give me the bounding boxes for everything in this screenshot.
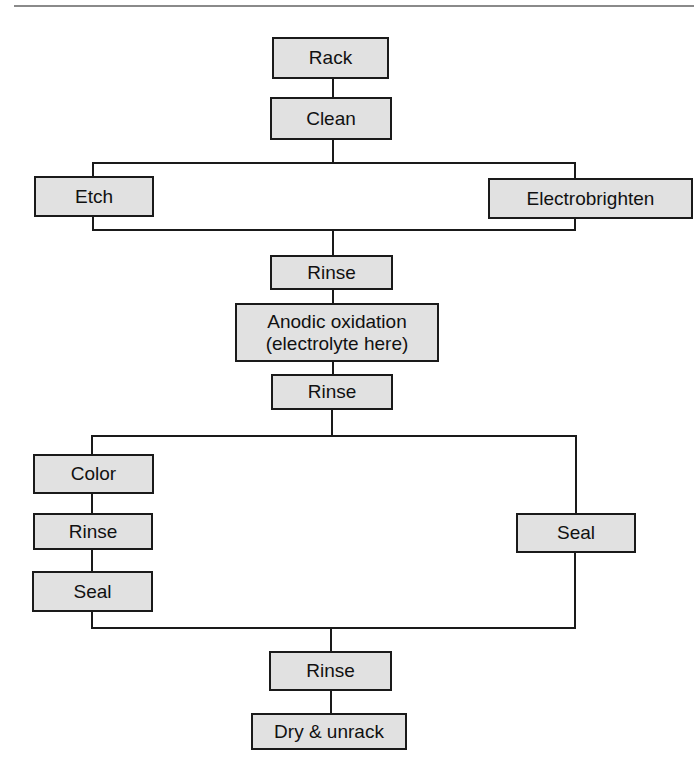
merge-line-2: [91, 627, 576, 629]
split-line-top-1: [92, 162, 576, 164]
step-rinse-2-label: Rinse: [308, 381, 357, 403]
step-color: Color: [33, 454, 154, 494]
step-rack: Rack: [272, 37, 389, 79]
connector-split-electrobrighten: [574, 162, 576, 179]
step-rinse-3-label: Rinse: [306, 660, 355, 682]
step-seal-left-label: Seal: [73, 581, 111, 603]
connector-anodic-rinse2: [332, 361, 334, 375]
step-color-label: Color: [71, 463, 116, 485]
step-anodic-oxidation-label: Anodic oxidation (electrolyte here): [266, 311, 409, 355]
connector-split-etch: [92, 162, 94, 177]
step-rinse-1: Rinse: [270, 255, 393, 290]
step-dry-unrack-label: Dry & unrack: [274, 721, 384, 743]
step-rinse-3: Rinse: [269, 651, 392, 691]
connector-split-seal-right: [575, 435, 577, 514]
step-rinse-1-label: Rinse: [307, 262, 356, 284]
connector-clean-split: [332, 139, 334, 164]
connector-seal-right-merge: [574, 552, 576, 629]
step-etch: Etch: [34, 176, 154, 217]
connector-merge-rinse3: [330, 627, 332, 652]
step-seal-right-label: Seal: [557, 522, 595, 544]
step-electrobrighten-label: Electrobrighten: [527, 188, 655, 210]
step-rinse-left-label: Rinse: [69, 521, 118, 543]
step-rinse-left: Rinse: [33, 513, 153, 550]
step-clean: Clean: [270, 97, 392, 140]
step-clean-label: Clean: [306, 108, 356, 130]
top-rule: [14, 5, 694, 7]
connector-color-rinse: [91, 493, 93, 514]
connector-rinse3-dry: [330, 690, 332, 714]
merge-line-1: [92, 229, 576, 231]
connector-split-color: [91, 435, 93, 455]
step-dry-unrack: Dry & unrack: [251, 713, 407, 750]
step-rack-label: Rack: [309, 47, 352, 69]
split-line-top-2: [91, 435, 577, 437]
step-etch-label: Etch: [75, 186, 113, 208]
connector-rack-clean: [332, 78, 334, 98]
step-electrobrighten: Electrobrighten: [488, 178, 693, 219]
step-rinse-2: Rinse: [271, 374, 393, 410]
connector-merge-rinse1: [332, 229, 334, 257]
connector-rinse-seal: [91, 549, 93, 572]
connector-rinse1-anodic: [332, 289, 334, 304]
step-seal-left: Seal: [32, 571, 153, 612]
connector-rinse2-split: [331, 409, 333, 437]
step-anodic-oxidation: Anodic oxidation (electrolyte here): [235, 303, 439, 362]
step-seal-right: Seal: [516, 513, 636, 553]
